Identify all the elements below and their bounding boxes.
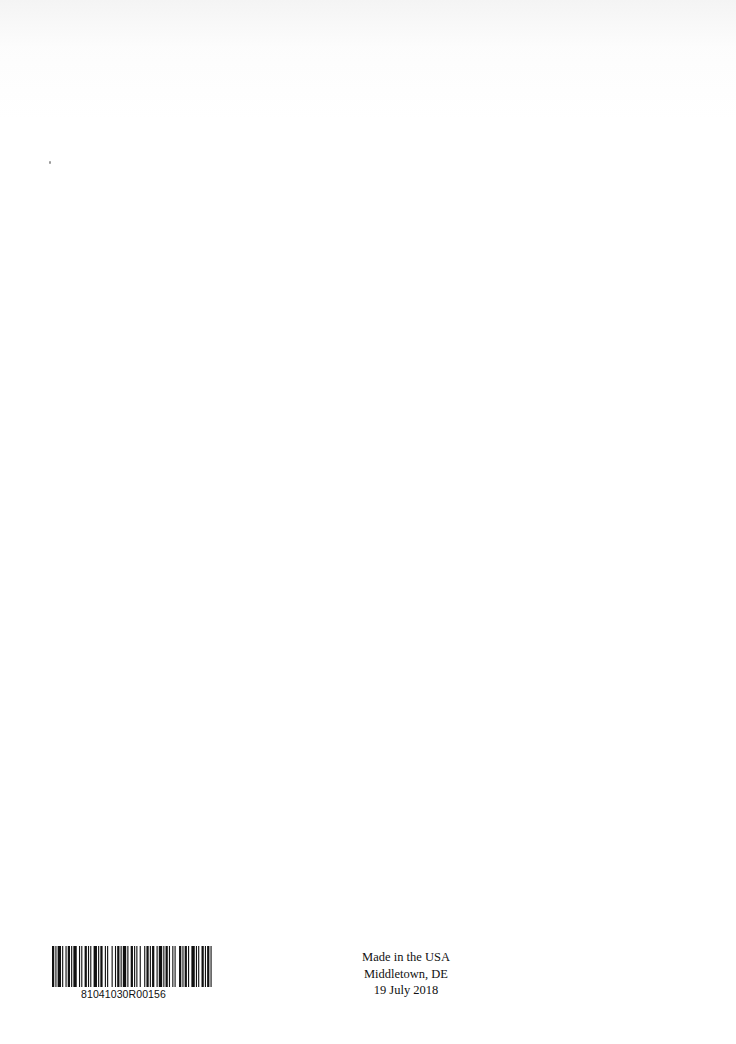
barcode-block: 81041030R00156 xyxy=(52,946,216,1000)
imprint-date: 19 July 2018 xyxy=(336,982,476,999)
imprint-origin: Made in the USA xyxy=(336,949,476,966)
show-through-shadow xyxy=(0,0,736,120)
printer-imprint: Made in the USA Middletown, DE 19 July 2… xyxy=(336,949,476,999)
barcode-number: 81041030R00156 xyxy=(52,988,216,1000)
blank-back-page: 81041030R00156 Made in the USA Middletow… xyxy=(0,0,736,1044)
imprint-location: Middletown, DE xyxy=(336,966,476,983)
barcode-icon xyxy=(52,946,215,987)
paper-speck xyxy=(49,161,51,164)
